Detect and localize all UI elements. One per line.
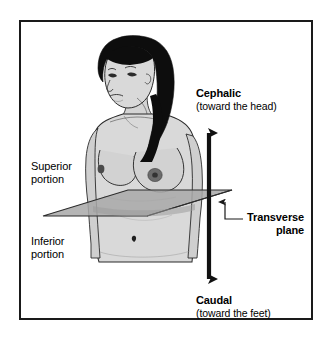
- label-caudal-gloss: (toward the feet): [196, 307, 271, 319]
- left-areola: [98, 165, 105, 173]
- anatomical-figure-panel: Cephalic (toward the head) Caudal (towar…: [0, 0, 328, 342]
- label-inferior-portion: Inferior portion: [31, 235, 64, 261]
- label-superior-line1: Superior: [31, 160, 72, 173]
- label-transverse-plane: Transverse plane: [247, 211, 304, 237]
- label-transverse-line1: Transverse: [247, 211, 304, 224]
- label-caudal-term: Caudal: [196, 294, 271, 307]
- transverse-plane-shape: [43, 190, 232, 216]
- label-cephalic-gloss: (toward the head): [196, 100, 277, 112]
- label-transverse-line2: plane: [247, 224, 304, 237]
- label-superior-line2: portion: [31, 173, 72, 186]
- torso-shape: [91, 114, 196, 262]
- right-nipple: [152, 172, 158, 177]
- label-inferior-line2: portion: [31, 248, 64, 261]
- label-caudal: Caudal (toward the feet): [196, 294, 271, 319]
- leader-elbow-path: [225, 202, 243, 219]
- label-superior-portion: Superior portion: [31, 160, 72, 186]
- human-figure: [86, 36, 203, 262]
- label-cephalic-term: Cephalic: [196, 87, 277, 100]
- transverse-plane-leader-line: [225, 202, 243, 219]
- label-cephalic: Cephalic (toward the head): [196, 87, 277, 112]
- label-inferior-line1: Inferior: [31, 235, 64, 248]
